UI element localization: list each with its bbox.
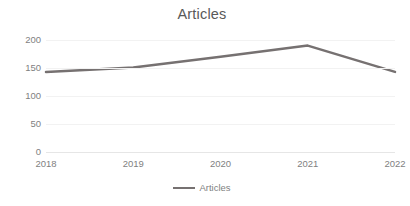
x-tick-label: 2022 [365,158,410,170]
gridline-100 [46,96,395,97]
chart-title: Articles [0,5,404,23]
y-tick-label: 0 [1,147,41,157]
legend-swatch-icon [173,187,195,190]
x-tick-label: 2019 [103,158,163,170]
y-tick-label: 100 [1,91,41,101]
y-tick-label: 50 [1,119,41,129]
y-axis: 050100150200 [0,40,41,152]
axis-line-zero [46,152,395,153]
plot-area [46,40,395,152]
x-tick-label: 2020 [191,158,251,170]
x-axis: 20182019202020212022 [46,158,395,172]
x-tick-label: 2018 [16,158,76,170]
gridline-200 [46,40,395,41]
legend-label-articles: Articles [199,182,230,194]
y-tick-label: 200 [1,35,41,45]
gridline-150 [46,68,395,69]
x-tick-label: 2021 [278,158,338,170]
gridline-50 [46,124,395,125]
chart-legend: Articles [0,182,404,194]
y-tick-label: 150 [1,63,41,73]
